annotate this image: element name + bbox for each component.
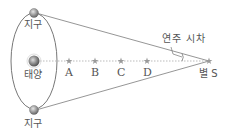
star-b-label: B bbox=[91, 67, 99, 78]
star-d-label: D bbox=[143, 67, 152, 78]
star-a-label: A bbox=[65, 67, 73, 78]
earth-bottom-label: 지구 bbox=[24, 119, 42, 129]
parallax-angle-arc bbox=[182, 54, 183, 62]
star-c-icon bbox=[118, 57, 125, 64]
sun-icon bbox=[29, 56, 40, 67]
star-s-icon bbox=[206, 57, 213, 64]
sun-label: 태양 bbox=[24, 70, 42, 80]
star-s-label: 별 S bbox=[199, 69, 218, 79]
star-a-icon bbox=[66, 57, 73, 64]
earth-bottom-icon bbox=[30, 106, 39, 115]
earth-top-label: 지구 bbox=[24, 20, 42, 30]
star-b-icon bbox=[92, 57, 99, 64]
star-c-label: C bbox=[117, 67, 125, 78]
earth-top-icon bbox=[30, 9, 39, 18]
star-d-icon bbox=[144, 57, 151, 64]
parallax-label: 연주 시차 bbox=[162, 34, 206, 44]
